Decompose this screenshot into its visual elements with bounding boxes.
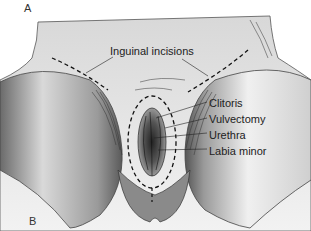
label-labia-minor: Labia minor <box>209 146 266 157</box>
panel-label-b: B <box>29 216 36 227</box>
label-vulvectomy: Vulvectomy <box>209 114 265 125</box>
panel-label-a: A <box>24 3 31 14</box>
label-urethra: Urethra <box>209 130 246 141</box>
label-clitoris: Clitoris <box>209 98 243 109</box>
label-inguinal-incisions: Inguinal incisions <box>110 46 194 57</box>
